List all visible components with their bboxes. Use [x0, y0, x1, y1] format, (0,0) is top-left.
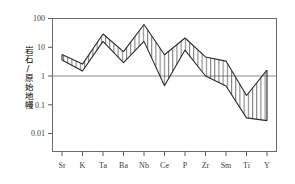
x-tick-labels: Sr K Ta Ba Nb Ce P Zr Sm Ti Y [58, 161, 270, 170]
y-tick-label: 100 [33, 14, 45, 23]
y-tick-label: 1 [41, 72, 45, 81]
x-tick-label: K [80, 161, 86, 170]
x-tick-label: P [183, 161, 188, 170]
x-tick-label: Sr [58, 161, 65, 170]
x-tick-label: Y [264, 161, 270, 170]
chart-canvas: 100 10 1 0.1 0.01 Sr K Ta Ba Nb Ce P Zr … [0, 0, 295, 184]
data-band [62, 24, 267, 120]
y-axis-label-text: 岩石/原始地幔 [22, 46, 34, 110]
x-tick-label: Nb [139, 161, 149, 170]
x-tick-label: Ta [99, 161, 107, 170]
x-tick-label: Ce [160, 161, 169, 170]
x-tick-label: Sm [221, 161, 232, 170]
y-tick-label: 10 [37, 43, 45, 52]
x-tick-label: Zr [202, 161, 210, 170]
data-band-fill [62, 24, 267, 120]
x-axis-ticks [62, 152, 267, 157]
y-tick-label: 0.1 [35, 101, 45, 110]
x-tick-label: Ti [243, 161, 251, 170]
y-axis-label: 岩石/原始地幔 [22, 46, 36, 136]
y-axis-ticks [48, 19, 53, 134]
x-tick-label: Ba [119, 161, 128, 170]
chart-figure: 岩石/原始地幔 [0, 0, 295, 184]
